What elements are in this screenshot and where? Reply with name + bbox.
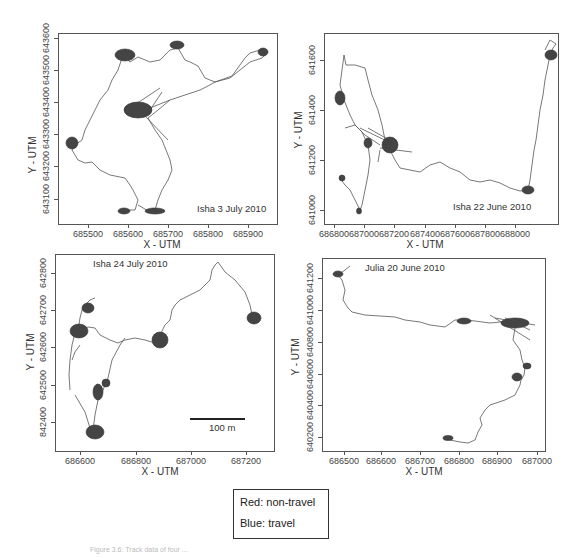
figure-caption: Figure 3.6: Track data of four ...: [90, 546, 188, 553]
panel-title: Julia 20 June 2010: [365, 262, 445, 273]
x-tick: 687000: [522, 456, 552, 466]
y-tick: 640600: [305, 359, 315, 389]
legend-non-travel: Red: non-travel: [240, 496, 315, 508]
x-tick: 686800: [444, 456, 474, 466]
y-tick: 640400: [305, 390, 315, 420]
x-tick: 686500: [329, 456, 359, 466]
x-axis-label: X - UTM: [405, 466, 442, 477]
y-tick: 641000: [305, 295, 315, 325]
y-tick: 640800: [305, 327, 315, 357]
legend-travel: Blue: travel: [240, 517, 295, 529]
legend: Red: non-travel Blue: travel: [233, 489, 329, 539]
x-tick: 686900: [482, 456, 512, 466]
y-tick: 640200: [305, 422, 315, 452]
y-axis-label: Y - UTM: [290, 338, 301, 375]
x-tick: 686600: [366, 456, 396, 466]
movement-track: [0, 0, 571, 557]
x-tick: 686700: [405, 456, 435, 466]
y-tick: 641200: [305, 263, 315, 293]
